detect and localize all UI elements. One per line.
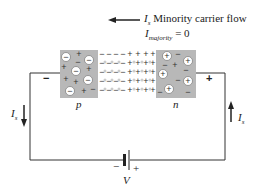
diagram: −−− −− +++ +++ −− −−−− −−−− −−−− −−−− −−… [0, 0, 268, 191]
svg-text:−: − [73, 66, 78, 76]
svg-text:+: + [143, 85, 148, 95]
svg-text:−: − [175, 49, 180, 59]
svg-text:+: + [127, 85, 132, 95]
svg-text:−: − [185, 87, 190, 97]
majority-value: = 0 [175, 27, 189, 39]
svg-text:−: − [157, 87, 162, 97]
svg-text:−: − [63, 52, 68, 62]
battery-negative-sign: − [113, 160, 119, 172]
svg-text:+: + [160, 69, 165, 79]
majority-subscript: majority [149, 34, 173, 42]
battery-positive-sign: + [133, 162, 139, 174]
left-current-subscript: s [15, 114, 18, 122]
svg-text:+: + [63, 74, 68, 84]
depletion-charges: −−−− −−−− −−−− −−−− −−−− ++++ ++++ ++++ … [99, 49, 155, 95]
minority-flow-label: Is Minority carrier flow [144, 12, 247, 27]
svg-text:−: − [113, 85, 118, 95]
svg-text:−: − [67, 86, 72, 96]
svg-text:+: + [73, 77, 78, 87]
n-region-label: n [173, 98, 179, 110]
left-current-label: Is [11, 107, 17, 122]
svg-text:+: + [150, 85, 155, 95]
svg-text:+: + [81, 86, 86, 96]
right-current-label: Is [238, 111, 244, 126]
svg-text:−: − [183, 65, 188, 75]
battery-icon [123, 150, 129, 170]
arrow-up-icon [228, 101, 234, 122]
svg-text:−: − [90, 84, 95, 94]
svg-text:+: + [61, 62, 66, 72]
svg-text:−: − [175, 75, 180, 85]
svg-text:−: − [162, 60, 167, 70]
arrow-left-icon [108, 17, 140, 23]
svg-text:+: + [86, 64, 91, 74]
majority-current-label: Imajority = 0 [145, 27, 190, 42]
battery-voltage-label: V [123, 174, 130, 186]
svg-text:+: + [185, 76, 190, 86]
current-subscript: s [148, 19, 151, 27]
svg-text:−: − [120, 85, 125, 95]
arrow-down-icon [21, 105, 27, 127]
svg-text:+: + [166, 84, 171, 94]
svg-text:−: − [75, 57, 80, 67]
minority-text: Minority carrier flow [153, 12, 246, 24]
right-terminal-sign: + [206, 72, 212, 84]
right-current-subscript: s [242, 118, 245, 126]
svg-text:−: − [99, 85, 104, 95]
p-region-label: p [76, 98, 82, 110]
left-terminal-sign: − [43, 72, 49, 84]
svg-text:+: + [135, 85, 140, 95]
svg-text:−: − [106, 85, 111, 95]
svg-text:+: + [172, 60, 177, 70]
